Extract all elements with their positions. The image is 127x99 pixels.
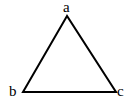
vertex-label-b: b xyxy=(9,83,17,99)
triangle-diagram: a b c xyxy=(0,0,127,99)
vertex-label-a: a xyxy=(63,0,70,15)
vertex-label-c: c xyxy=(117,83,124,99)
triangle-shape xyxy=(23,16,116,92)
